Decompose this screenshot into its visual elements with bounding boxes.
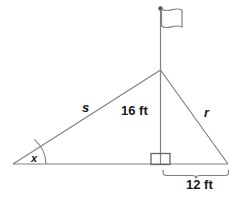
side-r-line (161, 70, 229, 164)
geometry-figure: 16 ft 12 ft s r x (0, 0, 245, 203)
angle-x-label: x (31, 153, 37, 164)
figure-canvas (0, 0, 245, 203)
side-r-label: r (204, 106, 209, 119)
flag-icon (162, 9, 183, 28)
height-label: 16 ft (121, 104, 148, 117)
side-s-label: s (82, 101, 89, 114)
base-label: 12 ft (186, 178, 213, 191)
